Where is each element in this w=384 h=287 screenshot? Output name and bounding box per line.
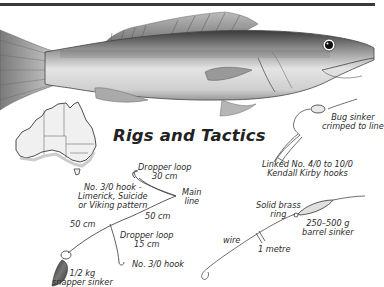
label-line: crimped to line <box>322 122 384 131</box>
label-line: barrel sinker <box>302 228 354 237</box>
label-line: 15 cm <box>120 240 174 249</box>
label-line: Kendall Kirby hooks <box>262 169 353 178</box>
label-wire: wire <box>223 236 240 245</box>
label-one-metre: 1 metre <box>258 245 290 254</box>
label-50cm-right: 50 cm <box>145 212 171 221</box>
label-line: 30 cm <box>138 172 192 181</box>
label-50cm-left: 50 cm <box>70 220 96 229</box>
label-snapper-sinker: 1/2 kg snapper sinker <box>52 269 113 287</box>
label-line: or Viking pattern <box>78 201 148 210</box>
australia-map <box>16 102 96 175</box>
label-hook-3-0: No. 3/0 hook <box>132 260 184 269</box>
fish-illustration <box>0 12 374 116</box>
label-hook-pattern: No. 3/0 hook - Limerick, Suicide or Viki… <box>78 183 148 210</box>
bug-sinker <box>311 105 325 113</box>
label-line: line <box>182 197 202 206</box>
label-bug-sinker: Bug sinker crimped to line <box>322 113 384 131</box>
page-title: Rigs and Tactics <box>113 126 266 145</box>
label-linked-hooks: Linked No. 4/0 to 10/0 Kendall Kirby hoo… <box>262 160 353 178</box>
label-main-line: Main line <box>182 188 202 206</box>
barrel-sinker <box>298 200 333 215</box>
label-line: snapper sinker <box>52 278 113 287</box>
label-brass-ring: Solid brass ring <box>256 201 301 219</box>
label-barrel-sinker: 250–500 g barrel sinker <box>302 219 354 237</box>
label-dropper-loop-15: Dropper loop 15 cm <box>120 231 174 249</box>
label-line: ring <box>256 210 301 219</box>
label-dropper-loop-30: Dropper loop 30 cm <box>138 163 192 181</box>
